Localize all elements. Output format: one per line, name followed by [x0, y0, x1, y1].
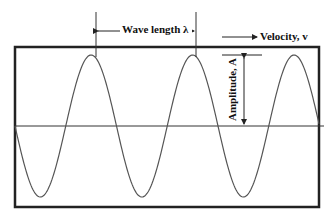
wave-diagram: Wave length λ Velocity, v Amplitude, A — [0, 0, 333, 219]
wavelength-label: Wave length λ — [122, 23, 189, 35]
velocity-label: Velocity, v — [260, 30, 308, 42]
amplitude-label: Amplitude, A — [226, 58, 238, 121]
